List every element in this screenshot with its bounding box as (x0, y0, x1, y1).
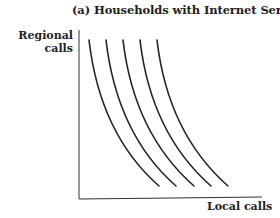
indifference-curve-5 (157, 40, 228, 186)
curves (89, 40, 228, 186)
axes (79, 30, 262, 199)
indifference-curve-diagram (0, 0, 280, 218)
x-axis (79, 197, 262, 199)
